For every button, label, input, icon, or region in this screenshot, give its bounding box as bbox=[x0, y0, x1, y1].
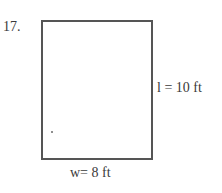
rectangle-figure bbox=[41, 20, 153, 160]
width-label: w= 8 ft bbox=[70, 165, 111, 181]
length-label: l = 10 ft bbox=[157, 80, 202, 96]
problem-number: 17. bbox=[3, 19, 21, 35]
stray-dot bbox=[51, 131, 53, 133]
